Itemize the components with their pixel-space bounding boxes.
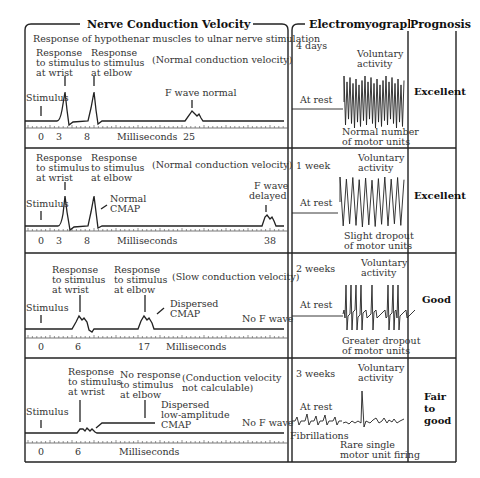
r1-prognosis: Excellent — [414, 86, 466, 98]
r2-elbow-3: at elbow — [91, 173, 132, 184]
r3-stimulus: Stimulus — [26, 303, 69, 314]
r3-velocity-note: (Slow conduction velocity) — [172, 272, 300, 283]
r4-axis-label: Milliseconds — [119, 447, 180, 458]
r4-elbow-3: at elbow — [120, 390, 161, 401]
r4-tick-0: 0 — [38, 447, 44, 458]
r4-emg-rest: At rest — [300, 402, 332, 413]
r1-tick-3: 3 — [56, 132, 62, 143]
r1-tick-0: 0 — [38, 132, 44, 143]
r4-prognosis-2: to — [424, 403, 435, 415]
header-emg: Electromyography — [306, 18, 425, 31]
r3-f-wave: No F wave — [242, 314, 293, 325]
r2-stimulus: Stimulus — [26, 199, 69, 210]
r1-f-wave: F wave normal — [165, 88, 237, 99]
r1-tick-25: 25 — [183, 132, 195, 143]
r2-tick-8: 8 — [84, 236, 90, 247]
r2-velocity-note: (Normal conduction velocity) — [152, 160, 292, 171]
r4-wrist-3: at wrist — [68, 387, 105, 398]
r3-tick-17: 17 — [138, 342, 150, 353]
header-prognosis: Prognosis — [410, 18, 471, 31]
r3-wrist-3: at wrist — [52, 285, 89, 296]
r3-emg-rest: At rest — [300, 300, 332, 311]
r2-emg-vol-2: activity — [358, 163, 393, 174]
r4-emg-vol-2: activity — [358, 373, 393, 384]
r4-f-wave: No F wave — [242, 418, 293, 429]
r1-emg-rest: At rest — [300, 95, 332, 106]
r1-velocity-note: (Normal conduction velocity) — [152, 55, 292, 66]
r1-tick-8: 8 — [84, 132, 90, 143]
r4-tick-6: 6 — [75, 447, 81, 458]
r3-emg-time: 2 weeks — [296, 264, 335, 275]
r4-cmap-3: CMAP — [161, 420, 191, 431]
r4-stimulus: Stimulus — [26, 407, 69, 418]
r2-wrist-3: at wrist — [36, 173, 73, 184]
r2-emg-time: 1 week — [296, 161, 330, 172]
subtitle: Response of hypothenar muscles to ulnar … — [33, 34, 320, 45]
r3-tick-6: 6 — [75, 342, 81, 353]
r3-axis-label: Milliseconds — [166, 342, 227, 353]
r4-prognosis-3: good — [424, 415, 451, 427]
r2-emg-cap-2: of motor units — [344, 241, 412, 252]
r2-tick-3: 3 — [56, 236, 62, 247]
r1-wrist-3: at wrist — [36, 68, 73, 79]
r4-velocity-note-2: not calculable) — [182, 383, 253, 394]
header-ncv: Nerve Conduction Velocity — [84, 18, 253, 31]
r2-axis-label: Milliseconds — [117, 236, 178, 247]
r2-cmap-2: CMAP — [110, 204, 140, 215]
r4-emg-cap-2: motor unit firing — [340, 450, 420, 461]
r3-prognosis: Good — [422, 294, 451, 306]
r2-tick-0: 0 — [38, 236, 44, 247]
r3-emg-vol-2: activity — [361, 268, 396, 279]
r4-prognosis-1: Fair — [424, 391, 446, 403]
r1-stimulus: Stimulus — [26, 93, 69, 104]
r3-tick-0: 0 — [38, 342, 44, 353]
r3-emg-cap-2: of motor units — [342, 346, 410, 357]
r2-f-wave-2: delayed — [249, 191, 286, 202]
r3-elbow-3: at elbow — [114, 285, 155, 296]
r2-tick-38: 38 — [264, 236, 276, 247]
r1-elbow-3: at elbow — [91, 68, 132, 79]
r1-emg-vol-2: activity — [357, 59, 392, 70]
r3-cmap-2: CMAP — [170, 309, 200, 320]
r2-prognosis: Excellent — [414, 190, 466, 202]
r1-axis-label: Milliseconds — [117, 132, 178, 143]
r4-emg-time: 3 weeks — [296, 369, 335, 380]
r2-emg-rest: At rest — [300, 198, 332, 209]
r1-emg-cap-2: of motor units — [342, 137, 410, 148]
r1-emg-time: 4 days — [296, 41, 327, 52]
